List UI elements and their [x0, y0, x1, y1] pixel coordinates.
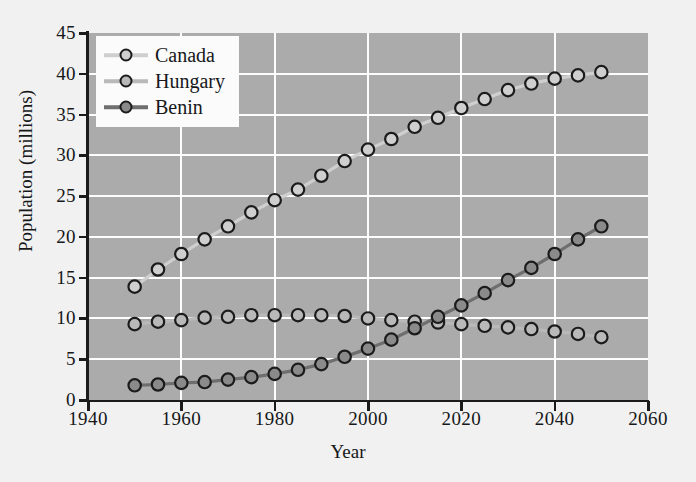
data-point: [455, 102, 467, 114]
legend-swatch-hungary: [104, 71, 148, 91]
data-point: [175, 248, 187, 260]
data-point: [572, 233, 584, 245]
data-point: [268, 194, 280, 206]
data-point: [385, 133, 397, 145]
data-point: [408, 322, 420, 334]
data-point: [432, 311, 444, 323]
data-point: [222, 311, 234, 323]
data-point: [268, 309, 280, 321]
data-point: [408, 121, 420, 133]
data-point: [245, 206, 257, 218]
data-point: [198, 376, 210, 388]
data-point: [548, 325, 560, 337]
legend-label-canada: Canada: [155, 45, 215, 65]
data-point: [315, 170, 327, 182]
data-point: [478, 320, 490, 332]
data-point: [595, 220, 607, 232]
series-line-benin: [135, 226, 602, 385]
data-point: [502, 84, 514, 96]
legend-swatch-canada: [104, 45, 148, 65]
data-point: [478, 93, 490, 105]
data-point: [455, 318, 467, 330]
series-benin: [128, 220, 607, 391]
data-point: [128, 318, 140, 330]
legend-swatch-benin: [104, 97, 148, 117]
data-point: [595, 331, 607, 343]
data-point: [478, 287, 490, 299]
data-point: [338, 155, 350, 167]
data-point: [152, 378, 164, 390]
data-point: [548, 248, 560, 260]
data-point: [175, 314, 187, 326]
data-point: [152, 316, 164, 328]
data-point: [245, 309, 257, 321]
legend-label-benin: Benin: [155, 97, 203, 117]
y-axis-title: Population (millions): [15, 41, 37, 301]
data-point: [315, 309, 327, 321]
data-point: [175, 377, 187, 389]
data-point: [548, 72, 560, 84]
data-point: [292, 183, 304, 195]
data-point: [128, 280, 140, 292]
data-point: [292, 364, 304, 376]
legend-marker-canada: [120, 49, 133, 62]
data-point: [362, 143, 374, 155]
data-point: [292, 309, 304, 321]
legend-item-canada[interactable]: Canada: [104, 42, 225, 68]
data-point: [338, 310, 350, 322]
data-point: [525, 262, 537, 274]
legend-item-hungary[interactable]: Hungary: [104, 68, 225, 94]
x-axis-title: Year: [0, 441, 696, 463]
data-point: [362, 342, 374, 354]
data-point: [315, 358, 327, 370]
data-point: [572, 328, 584, 340]
data-point: [385, 314, 397, 326]
data-point: [572, 69, 584, 81]
data-point: [245, 371, 257, 383]
legend-label-hungary: Hungary: [155, 71, 225, 91]
data-point: [362, 312, 374, 324]
data-point: [268, 368, 280, 380]
legend-item-benin[interactable]: Benin: [104, 94, 225, 120]
data-point: [385, 333, 397, 345]
legend-marker-hungary: [120, 75, 133, 88]
data-point: [502, 274, 514, 286]
data-point: [198, 233, 210, 245]
legend: Canada Hungary Benin: [96, 36, 239, 127]
data-point: [222, 220, 234, 232]
legend-marker-benin: [120, 101, 133, 114]
data-point: [595, 66, 607, 78]
data-point: [198, 311, 210, 323]
data-point: [455, 299, 467, 311]
line-chart: 051015202530354045 194019601980200020202…: [0, 0, 696, 482]
series-hungary: [128, 309, 607, 343]
data-point: [338, 351, 350, 363]
data-point: [222, 373, 234, 385]
data-point: [525, 77, 537, 89]
data-point: [152, 263, 164, 275]
data-point: [432, 112, 444, 124]
data-point: [502, 321, 514, 333]
data-point: [525, 323, 537, 335]
data-point: [128, 379, 140, 391]
